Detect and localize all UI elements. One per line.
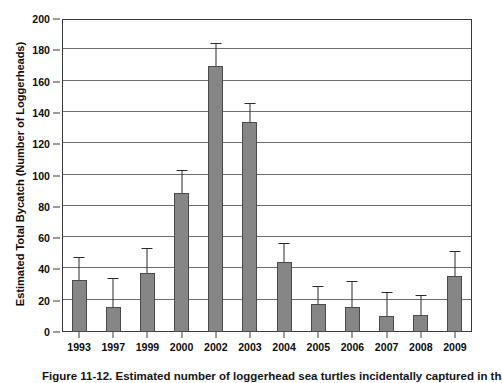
x-tick-mark: [318, 332, 319, 338]
x-tick-mark: [454, 332, 455, 338]
y-tick-mark: [53, 206, 60, 207]
bar-group-2006: [335, 19, 369, 332]
bar: [379, 316, 394, 332]
error-bar-cap: [142, 248, 153, 249]
x-tick-mark: [147, 332, 148, 338]
x-tick-slot: [370, 332, 404, 340]
error-bar-line: [352, 282, 353, 307]
bar: [242, 122, 257, 332]
y-tick-mark: [53, 81, 60, 82]
y-tick-label: 40: [38, 263, 50, 275]
error-bar-line: [147, 249, 148, 272]
x-tick-label-2002: 2002: [199, 341, 233, 357]
error-bar-line: [79, 258, 80, 280]
error-bar-cap: [415, 295, 426, 296]
x-tick-mark: [352, 332, 353, 338]
bar: [72, 280, 87, 332]
y-tick-label: 120: [32, 138, 50, 150]
error-bar-line: [386, 293, 387, 316]
x-tick-slot: [62, 332, 96, 340]
bar: [140, 273, 155, 332]
x-tick-slot: [438, 332, 472, 340]
y-tick-mark: [53, 175, 60, 176]
y-tick-mark: [53, 50, 60, 51]
bar-group-2005: [301, 19, 335, 332]
x-tick-mark: [181, 332, 182, 338]
error-bar-cap: [210, 43, 221, 44]
error-bar-line: [284, 244, 285, 261]
y-tick-label: 0: [44, 326, 50, 338]
x-tick-mark: [284, 332, 285, 338]
x-tick-label-2004: 2004: [267, 341, 301, 357]
y-axis-ticks: 020406080100120140160180200: [0, 19, 60, 332]
x-tick-label-2000: 2000: [165, 341, 199, 357]
x-tick-mark: [249, 332, 250, 338]
bar-group-1999: [130, 19, 164, 332]
y-tick-mark: [53, 19, 60, 20]
error-bar-cap: [347, 281, 358, 282]
bar: [106, 307, 121, 332]
bar-group-2004: [267, 19, 301, 332]
x-tick-slot: [267, 332, 301, 340]
error-bar-line: [420, 296, 421, 315]
error-bar-cap: [74, 257, 85, 258]
error-bar-line: [181, 171, 182, 193]
bar-group-2003: [233, 19, 267, 332]
bar-group-2007: [370, 19, 404, 332]
error-bar-line: [318, 287, 319, 304]
bar: [174, 193, 189, 332]
x-tick-label-2006: 2006: [335, 341, 369, 357]
error-bar-cap: [449, 251, 460, 252]
error-bar-cap: [279, 243, 290, 244]
figure-caption: Figure 11-12. Estimated number of logger…: [42, 370, 502, 383]
y-tick-mark: [53, 269, 60, 270]
x-tick-label-2007: 2007: [370, 341, 404, 357]
y-tick-label: 200: [32, 13, 50, 25]
bar: [447, 276, 462, 332]
bar-group-2002: [199, 19, 233, 332]
bar-group-2009: [438, 19, 472, 332]
bars-layer: [62, 19, 472, 332]
bar-group-1993: [62, 19, 96, 332]
bar: [311, 304, 326, 332]
x-tick-mark: [113, 332, 114, 338]
y-tick-mark: [53, 332, 60, 333]
bar-group-1997: [96, 19, 130, 332]
y-tick-label: 100: [32, 170, 50, 182]
error-bar-cap: [244, 103, 255, 104]
y-tick-label: 60: [38, 232, 50, 244]
x-tick-slot: [301, 332, 335, 340]
error-bar-line: [454, 252, 455, 275]
x-tick-label-1999: 1999: [130, 341, 164, 357]
y-tick-label: 140: [32, 107, 50, 119]
x-tick-label-1993: 1993: [62, 341, 96, 357]
x-tick-label-2008: 2008: [404, 341, 438, 357]
error-bar-cap: [313, 286, 324, 287]
x-tick-mark: [420, 332, 421, 338]
y-tick-label: 20: [38, 295, 50, 307]
x-tick-label-2009: 2009: [438, 341, 472, 357]
y-tick-label: 180: [32, 44, 50, 56]
error-bar-cap: [108, 278, 119, 279]
x-tick-label-1997: 1997: [96, 341, 130, 357]
y-tick-mark: [53, 300, 60, 301]
x-tick-slot: [96, 332, 130, 340]
x-axis-labels: 1993199719992000200220032004200520062007…: [62, 341, 472, 357]
x-tick-slot: [199, 332, 233, 340]
x-tick-label-2005: 2005: [301, 341, 335, 357]
bar-group-2000: [165, 19, 199, 332]
bar: [208, 66, 223, 332]
bar-group-2008: [404, 19, 438, 332]
error-bar-cap: [381, 292, 392, 293]
x-tick-mark: [215, 332, 216, 338]
error-bar-cap: [176, 170, 187, 171]
x-tick-mark: [386, 332, 387, 338]
y-tick-mark: [53, 144, 60, 145]
x-tick-slot: [404, 332, 438, 340]
bar: [345, 307, 360, 332]
x-tick-slot: [165, 332, 199, 340]
bar: [277, 262, 292, 332]
error-bar-line: [249, 104, 250, 123]
y-tick-mark: [53, 238, 60, 239]
